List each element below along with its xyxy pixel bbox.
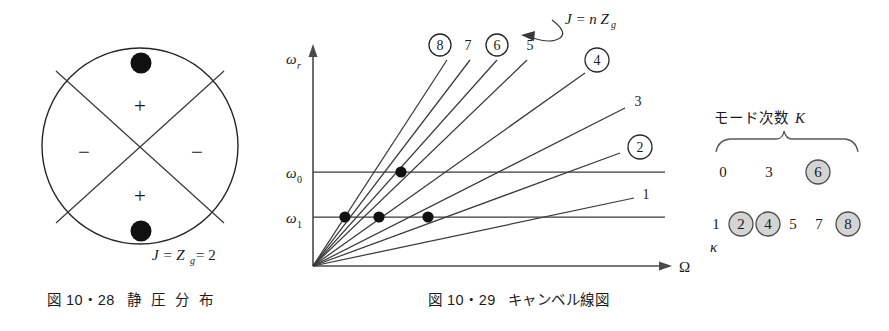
ray-order-5: [313, 60, 527, 266]
order-direction-annotation: J = n Z g: [521, 11, 616, 41]
figure-10-29-group: ω r Ω ω 0 ω 1: [286, 11, 690, 275]
ray-labels: 8 7 6 5 4 3 2 1: [429, 34, 652, 202]
mode-item-0: 0: [719, 164, 727, 180]
caption-figure-10-28: 図 10・28静 圧 分 布: [47, 288, 216, 309]
caption-right-title: キャンベル線図: [508, 292, 610, 308]
pressure-circle: [42, 48, 238, 244]
ray-order-3: [313, 108, 625, 266]
bottom-node-dot: [131, 221, 152, 242]
mode-order-panel: モード次数 K 0 3 6 1 2 4 5 7 8: [710, 110, 860, 255]
y-axis-label-omega: ω: [286, 51, 297, 67]
kappa-item-4: 4: [764, 216, 772, 232]
dot-omega0-order6: [395, 166, 406, 177]
dot-omega1-order4: [422, 211, 433, 222]
annotation-subscript-g: g: [190, 255, 195, 266]
ray-label-2: 2: [637, 140, 644, 155]
ray-label-4: 4: [594, 53, 601, 68]
ray-order-6: [313, 60, 497, 266]
mode-item-3: 3: [765, 164, 773, 180]
omega0-label-subscript: 0: [297, 174, 302, 185]
figure-sheet: + + − − J = Z g = 2 ω r Ω ω: [0, 0, 889, 331]
ray-order-8: [313, 60, 447, 266]
kappa-axis-symbol: κ: [710, 239, 718, 255]
kappa-item-5: 5: [789, 216, 797, 232]
ray-label-1: 1: [643, 187, 650, 202]
y-axis-label-subscript-r: r: [297, 60, 301, 71]
dot-omega1-order6: [373, 211, 384, 222]
engine-order-rays: [313, 60, 634, 266]
kappa-item-8: 8: [844, 216, 852, 232]
pressure-annotation: J = Z g = 2: [152, 247, 216, 266]
ray-order-7: [313, 60, 470, 266]
order-direction-arrow-curve: [533, 20, 563, 41]
ray-label-7: 7: [465, 38, 472, 53]
caption-right-number: 図 10・29: [428, 292, 496, 308]
caption-left-number: 図 10・28: [47, 292, 115, 308]
omega1-label: ω: [286, 210, 297, 226]
ray-label-3: 3: [635, 94, 642, 109]
mode-panel-title: モード次数: [714, 110, 789, 126]
kappa-item-7: 7: [815, 216, 823, 232]
mode-row-kappa: 1 2 4 5 7 8 κ: [710, 212, 860, 255]
annotation-j-eq-zg: J = Z: [152, 247, 185, 263]
ray-label-8: 8: [437, 38, 444, 53]
kappa-item-1: 1: [712, 216, 720, 232]
omega0-label: ω: [286, 165, 297, 181]
figure-10-28-group: + + − − J = Z g = 2: [42, 48, 238, 266]
figures-canvas: + + − − J = Z g = 2 ω r Ω ω: [0, 0, 889, 331]
ray-label-6: 6: [494, 38, 501, 53]
kappa-item-2: 2: [737, 216, 745, 232]
annotation-nzg-subscript: g: [611, 19, 616, 30]
sign-minus-right: −: [191, 140, 203, 164]
caption-left-title: 静 圧 分 布: [127, 292, 216, 308]
sign-plus-bottom: +: [134, 184, 146, 208]
top-node-dot: [131, 53, 152, 74]
mode-row-even: 0 3 6: [719, 160, 830, 184]
omega1-label-subscript: 1: [297, 219, 302, 230]
annotation-j-eq-nzg: J = n Z: [565, 11, 610, 27]
sign-minus-left: −: [78, 140, 90, 164]
dot-omega1-order8: [339, 211, 350, 222]
mode-brace: [716, 131, 858, 152]
ray-order-2: [313, 153, 620, 266]
caption-figure-10-29: 図 10・29キャンベル線図: [428, 288, 609, 309]
omega-axis-arrowhead: [309, 44, 318, 57]
sign-plus-top: +: [134, 94, 146, 118]
mode-item-6: 6: [814, 164, 822, 180]
annotation-eq-two: = 2: [196, 247, 216, 263]
omega-capital-axis-arrowhead: [659, 262, 672, 271]
x-axis-label-omega-capital: Ω: [679, 259, 690, 275]
mode-panel-title-symbol: K: [794, 110, 806, 126]
